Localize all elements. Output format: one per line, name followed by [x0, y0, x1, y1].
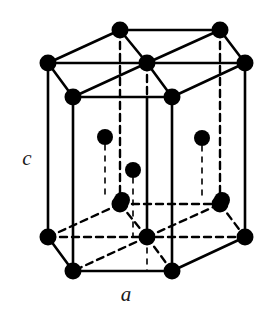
- atom-bottom-right: [237, 229, 254, 246]
- atom-bottom-front-left: [65, 263, 82, 280]
- hcp-crystal-figure: c a: [0, 0, 274, 315]
- atom-mid-right: [194, 130, 210, 146]
- atom-bottom-left: [40, 229, 57, 246]
- lattice-parameter-a-label: a: [121, 282, 132, 306]
- atom-top-back-left: [112, 22, 129, 39]
- atom-top-front-right: [164, 89, 181, 106]
- atom-top-right: [237, 55, 254, 72]
- atom-mid-left: [97, 129, 113, 145]
- atom-bottom-back-left: [112, 196, 129, 213]
- atom-top-front-left: [65, 89, 82, 106]
- lattice-parameter-c-label: c: [22, 146, 32, 170]
- atom-top-left: [40, 55, 57, 72]
- crystal-structure-diagram: c a: [0, 0, 274, 315]
- atom-top-back-right: [212, 22, 229, 39]
- atom-bottom-back-right: [212, 196, 229, 213]
- atom-bottom-center: [139, 229, 156, 246]
- atom-mid-center: [125, 162, 141, 178]
- atom-bottom-front-right: [164, 263, 181, 280]
- atom-top-center: [139, 55, 156, 72]
